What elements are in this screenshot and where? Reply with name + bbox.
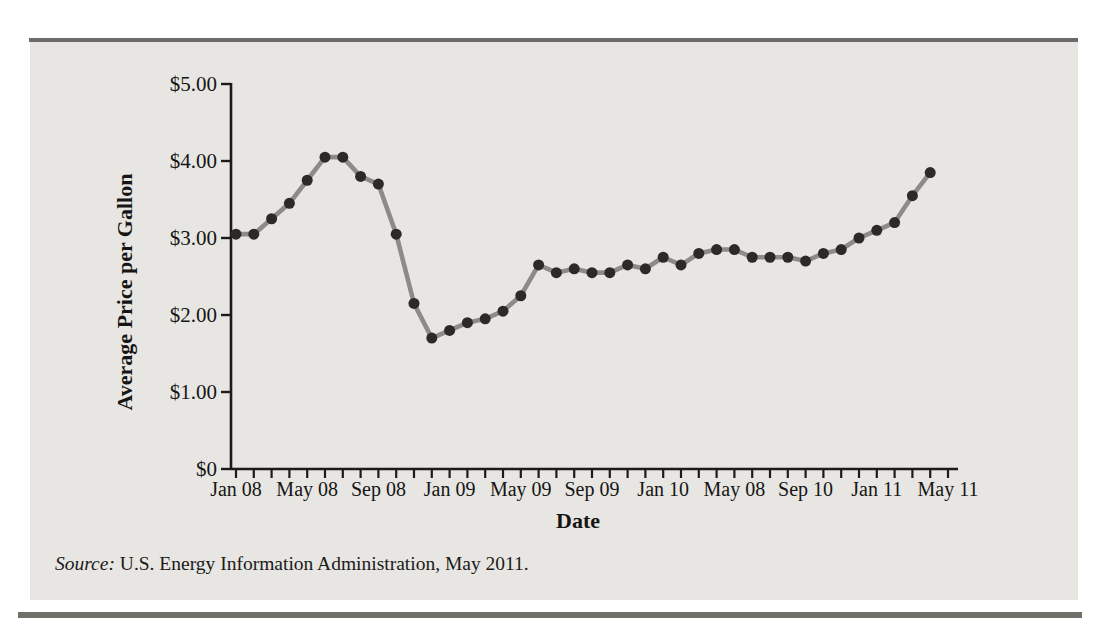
data-point — [391, 229, 402, 240]
data-point — [800, 256, 811, 267]
figure-caption-clipped: FIGURE 4.1U.S. AVERAGE PRICE PER GALLON … — [0, 0, 1099, 6]
x-axis-title: Date — [448, 508, 708, 534]
x-tick-label: Jan 08 — [210, 478, 262, 500]
data-point — [302, 175, 313, 186]
x-tick-label: Sep 08 — [351, 478, 406, 501]
data-point — [480, 313, 491, 324]
data-point — [498, 306, 509, 317]
data-point — [889, 217, 900, 228]
y-tick-label: $1.00 — [170, 380, 217, 404]
x-tick-label: Jan 10 — [637, 478, 689, 500]
data-point — [818, 248, 829, 259]
y-tick-label: $5.00 — [170, 72, 217, 96]
data-point — [515, 290, 526, 301]
data-point — [266, 213, 277, 224]
data-point — [765, 252, 776, 263]
source-text: U.S. Energy Information Administration, … — [120, 553, 529, 574]
data-point — [871, 225, 882, 236]
x-tick-label: May 11 — [918, 478, 979, 501]
data-point — [729, 244, 740, 255]
data-point — [444, 325, 455, 336]
data-point — [426, 333, 437, 344]
data-point — [836, 244, 847, 255]
price-series-line — [236, 157, 930, 338]
x-tick-label: May 09 — [490, 478, 552, 501]
data-point — [622, 259, 633, 270]
data-point — [693, 248, 704, 259]
data-point — [604, 267, 615, 278]
data-point — [551, 267, 562, 278]
data-point — [320, 152, 331, 163]
source-label: Source: — [55, 553, 115, 574]
data-point — [907, 190, 918, 201]
textbook-figure-page: { "figure": { "header_label": "FIGURE 4.… — [0, 0, 1099, 640]
data-point — [462, 317, 473, 328]
data-point — [355, 171, 366, 182]
x-tick-label: Jan 09 — [424, 478, 476, 500]
y-tick-label: $2.00 — [170, 303, 217, 327]
figure-title: U.S. AVERAGE PRICE PER GALLON OF GASOLIN… — [171, 0, 578, 3]
x-tick-label: May 08 — [704, 478, 766, 501]
data-point — [337, 152, 348, 163]
data-point — [925, 167, 936, 178]
data-point — [533, 259, 544, 270]
x-tick-label: Sep 09 — [565, 478, 620, 501]
x-tick-label: Sep 10 — [778, 478, 833, 501]
data-point — [248, 229, 259, 240]
data-point — [676, 259, 687, 270]
x-tick-label: Jan 11 — [851, 478, 902, 500]
data-point — [373, 179, 384, 190]
data-point — [587, 267, 598, 278]
figure-number: FIGURE 4.1 — [28, 0, 119, 3]
y-tick-label: $4.00 — [170, 149, 217, 173]
data-point — [284, 198, 295, 209]
y-tick-label: $3.00 — [170, 226, 217, 250]
x-tick-label: May 08 — [276, 478, 338, 501]
data-point — [640, 263, 651, 274]
data-point — [231, 229, 242, 240]
data-point — [854, 233, 865, 244]
bottom-rule — [18, 612, 1082, 618]
data-point — [658, 252, 669, 263]
source-note: Source: U.S. Energy Information Administ… — [55, 553, 529, 575]
data-point — [569, 263, 580, 274]
data-point — [409, 298, 420, 309]
data-point — [711, 244, 722, 255]
data-point — [782, 252, 793, 263]
data-point — [747, 252, 758, 263]
